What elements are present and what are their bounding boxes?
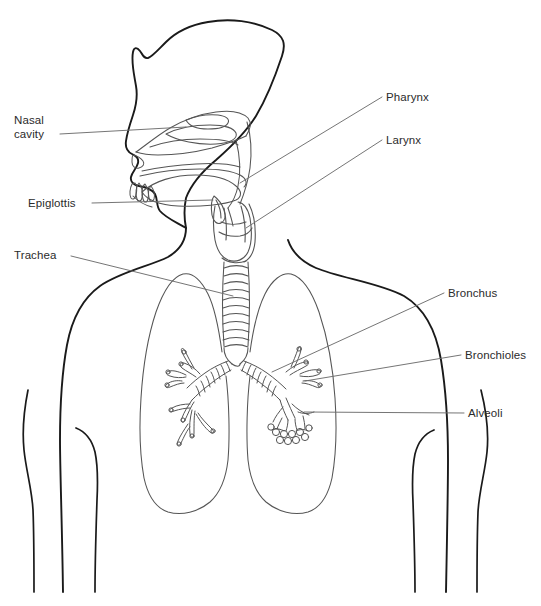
leader-pharynx xyxy=(240,97,382,183)
head-profile xyxy=(126,20,284,228)
leader-alveoli xyxy=(304,412,464,413)
left-lung xyxy=(140,274,229,514)
label-nasal-cavity-line1: Nasal xyxy=(14,114,44,126)
leader-bronchioles xyxy=(305,355,461,381)
alveoli-cluster xyxy=(268,416,312,445)
label-pharynx: Pharynx xyxy=(386,91,429,104)
label-larynx: Larynx xyxy=(386,134,421,147)
label-trachea: Trachea xyxy=(14,249,56,262)
label-epiglottis: Epiglottis xyxy=(28,197,76,210)
label-nasal-cavity: Nasal cavity xyxy=(14,114,44,141)
label-bronchioles: Bronchioles xyxy=(465,349,526,362)
nasal-cavity-turbinates xyxy=(132,111,250,171)
label-nasal-cavity-line2: cavity xyxy=(14,128,44,140)
right-lung xyxy=(247,274,336,514)
respiratory-system-diagram: Nasal cavity Epiglottis Trachea Pharynx … xyxy=(0,0,541,606)
label-bronchus: Bronchus xyxy=(448,287,497,300)
leader-bronchus xyxy=(272,293,444,372)
left-bronchus xyxy=(165,348,231,446)
leader-larynx xyxy=(246,140,382,228)
larynx xyxy=(214,202,256,263)
anatomy-illustration xyxy=(0,0,541,606)
trachea-rings xyxy=(223,262,250,366)
label-alveoli: Alveoli xyxy=(468,407,503,420)
torso-outline xyxy=(60,228,448,592)
right-arm xyxy=(412,390,487,592)
